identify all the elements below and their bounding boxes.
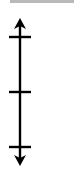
vertical-double-arrow-axis (0, 0, 74, 175)
